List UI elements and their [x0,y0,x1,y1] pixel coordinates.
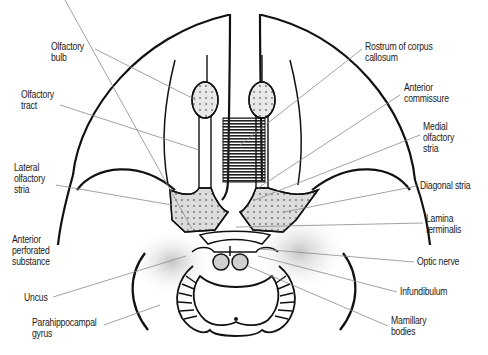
label-uncus: Uncus [24,292,48,303]
left-shade [130,228,214,296]
label-anterior-commissure: Anterior commissure [404,82,449,104]
label-infundibulum: Infundibulum [400,286,447,297]
label-olfactory-tract: Olfactory tract [21,89,54,111]
label-olfactory-bulb: Olfactory bulb [51,41,84,63]
label-lamina-terminalis: Lamina terminalis [426,213,461,235]
label-lateral-olfactory-stria: Lateral olfactory stria [14,162,45,195]
label-rostrum-of-corpus-callosum: Rostrum of corpus callosum [365,41,433,63]
label-anterior-perforated-substance: Anterior perforated substance [12,234,50,267]
label-parahippocampal-gyrus: Parahippocampal gyrus [32,317,97,339]
label-optic-nerve: Optic nerve [417,256,459,267]
label-mamillary-bodies: Mamillary bodies [391,315,426,337]
rostrum [223,118,265,182]
label-medial-olfactory-stria: Medial olfactory stria [423,121,454,154]
label-diagonal-stria: Diagonal stria [420,180,470,191]
